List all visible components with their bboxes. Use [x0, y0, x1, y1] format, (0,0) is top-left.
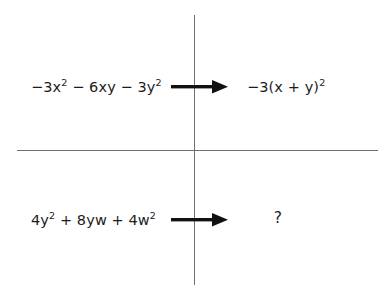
- expression-top-left: −3x2 − 6xy − 3y2: [31, 80, 162, 95]
- expression-bottom-left: 4y2 + 8yw + 4w2: [31, 213, 156, 228]
- diagram-canvas: −3x2 − 6xy − 3y2 −3(x + y)2 4y2 + 8yw + …: [0, 0, 392, 290]
- expression-bottom-left-base-2: + 8yw + 4w: [55, 212, 150, 228]
- right-arrow-icon-top: [171, 78, 229, 96]
- right-arrow-icon-bottom: [171, 211, 229, 229]
- expression-top-left-base-1: −3x: [31, 79, 61, 95]
- expression-bottom-left-base-1: 4y: [31, 212, 49, 228]
- expression-bottom-right-question-mark: ?: [247, 211, 309, 227]
- expression-top-right: −3(x + y)2: [247, 80, 325, 95]
- expression-top-left-base-2: − 6xy − 3y: [67, 79, 155, 95]
- expression-top-right-base-1: −3(x + y): [247, 79, 319, 95]
- expression-top-right-exponent-1: 2: [319, 77, 325, 88]
- horizontal-divider: [17, 150, 378, 151]
- expression-bottom-left-exponent-2: 2: [150, 210, 156, 221]
- expression-top-left-exponent-2: 2: [155, 77, 161, 88]
